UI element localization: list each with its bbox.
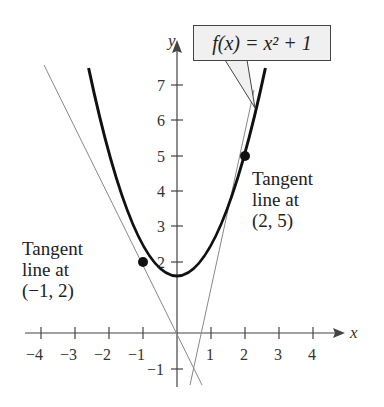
svg-text:x: x	[349, 323, 358, 342]
svg-text:2: 2	[240, 346, 248, 363]
svg-text:y: y	[166, 31, 176, 50]
right-line3: (2, 5)	[252, 210, 313, 231]
svg-text:3: 3	[274, 346, 282, 363]
svg-text:−4: −4	[26, 346, 43, 363]
left-line1: Tangent	[22, 238, 83, 259]
plot: −4−3−2−1 1234 7654 32−1 x y	[0, 0, 384, 407]
right-annotation: Tangent line at (2, 5)	[252, 168, 313, 231]
svg-text:4: 4	[157, 183, 165, 200]
left-line2: line at	[22, 259, 83, 280]
svg-text:−1: −1	[147, 361, 164, 378]
svg-text:7: 7	[157, 77, 165, 94]
svg-text:1: 1	[206, 346, 214, 363]
svg-text:6: 6	[157, 112, 165, 129]
svg-text:3: 3	[157, 218, 165, 235]
left-annotation: Tangent line at (−1, 2)	[22, 238, 83, 301]
right-line1: Tangent	[252, 168, 313, 189]
left-line3: (−1, 2)	[22, 280, 83, 301]
svg-text:−3: −3	[60, 346, 77, 363]
svg-text:4: 4	[308, 346, 316, 363]
svg-text:5: 5	[157, 148, 165, 165]
svg-text:−1: −1	[128, 346, 145, 363]
function-callout: f(x) = x² + 1	[193, 25, 331, 61]
svg-text:−2: −2	[94, 346, 111, 363]
right-line2: line at	[252, 189, 313, 210]
